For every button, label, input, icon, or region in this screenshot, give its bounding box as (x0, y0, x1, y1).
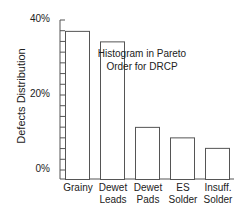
x-tick-label: DewetLeads (95, 182, 131, 206)
bar-dewet-pads (136, 127, 160, 179)
chart-plot-area (0, 0, 248, 212)
bar-insuff-solder (206, 148, 230, 179)
chart-title: Histogram in Pareto Order for DRCP (87, 47, 197, 73)
y-tick-0: 0% (20, 163, 50, 174)
x-tick-label: Grainy (60, 182, 96, 194)
x-tick-label: Insuff.Solder (200, 182, 236, 206)
chart-title-line-2: Order for DRCP (87, 60, 197, 73)
chart-title-line-1: Histogram in Pareto (87, 47, 197, 60)
x-tick-label: DewetPads (130, 182, 166, 206)
y-tick-20: 20% (20, 88, 50, 99)
y-tick-40: 40% (20, 13, 50, 24)
bar-es-solder (171, 138, 195, 180)
bar-grainy (66, 31, 90, 179)
x-tick-label: ESSolder (165, 182, 201, 206)
